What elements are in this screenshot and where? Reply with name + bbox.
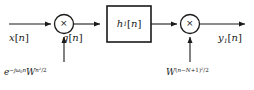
chirp-filter-block-diagram: × × x[n] g[n] h1[n] y1[n] e−jω0nWn2/2 W(… (0, 0, 254, 90)
chirp-right-divisor: /2 (203, 67, 208, 73)
chirp-right-exponent: (n−N+1)2/2 (175, 67, 208, 73)
intermediate-bracket-close: ] (79, 32, 83, 43)
chirp-left-w-exponent: n2/2 (35, 67, 46, 73)
chirp-right-label: W(n−N+1)2/2 (166, 68, 209, 77)
chirp-right-w-base: W (166, 67, 175, 77)
chirp-left-label: e−jω0nWn2/2 (4, 68, 47, 77)
output-signal-label: y1[n] (218, 33, 242, 43)
output-bracket-close: ] (238, 32, 242, 43)
chirp-left-exponent: −jω0n (9, 67, 26, 73)
input-bracket-close: ] (25, 32, 29, 43)
chirp-left-w-divisor: /2 (41, 67, 46, 73)
multiplier-left-cross-icon: × (60, 19, 68, 28)
multiplier-right-cross-icon: × (186, 19, 194, 28)
intermediate-signal-label: g[n] (62, 33, 83, 43)
filter-block-label: h1[n] (107, 6, 151, 42)
input-signal-label: x[n] (9, 33, 29, 43)
filter-bracket-close: ] (137, 19, 141, 29)
chirp-left-w-base: W (26, 67, 35, 77)
